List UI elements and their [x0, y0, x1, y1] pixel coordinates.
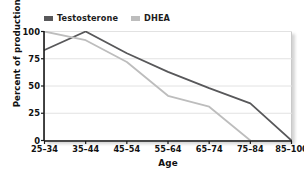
- legend-swatch-icon-testosterone: [44, 16, 53, 21]
- legend-label-dhea: DHEA: [144, 14, 170, 22]
- legend-swatch-icon-dhea: [131, 16, 140, 21]
- x-tick-label: 75–84: [237, 145, 264, 153]
- chart-container: Testosterone DHEA Percent of production …: [0, 0, 304, 174]
- x-tick-label: 25–34: [31, 145, 58, 153]
- legend-item-dhea: DHEA: [131, 14, 170, 22]
- x-axis-tick-labels: 25–3435–4445–5455–6465–7475–8485–100: [44, 145, 292, 156]
- x-axis-title: Age: [44, 158, 292, 168]
- legend-item-testosterone: Testosterone: [44, 14, 118, 22]
- legend-label-testosterone: Testosterone: [57, 14, 118, 22]
- chart-legend: Testosterone DHEA: [44, 12, 170, 25]
- x-tick-label: 65–74: [196, 145, 223, 153]
- x-tick-label: 85–100: [275, 145, 304, 153]
- x-tick-label: 45–54: [113, 145, 140, 153]
- x-tick-label: 35–44: [72, 145, 99, 153]
- axis-lines: [36, 26, 298, 150]
- x-tick-label: 55–64: [155, 145, 182, 153]
